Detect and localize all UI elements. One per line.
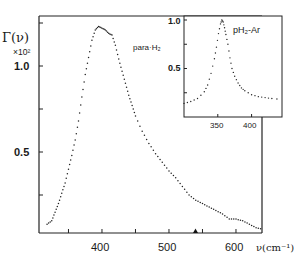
- data-point: [186, 191, 188, 193]
- inset-data-point: [254, 95, 255, 96]
- data-point: [119, 62, 121, 64]
- inset-data-point: [183, 103, 184, 104]
- data-point: [173, 175, 175, 177]
- data-point: [63, 186, 65, 188]
- data-point: [59, 199, 61, 201]
- data-point: [249, 223, 251, 225]
- data-point: [118, 58, 120, 60]
- inset-data-point: [228, 50, 229, 51]
- data-point: [105, 29, 107, 31]
- x-axis-label: ν(cm⁻¹): [256, 242, 294, 253]
- data-point: [96, 28, 98, 30]
- data-point: [79, 112, 81, 114]
- inset-data-point: [241, 87, 242, 88]
- data-point: [240, 219, 242, 221]
- inset-data-point: [218, 33, 219, 34]
- data-point: [253, 226, 255, 228]
- data-point: [206, 205, 208, 207]
- inset-data-point: [224, 27, 225, 28]
- data-point: [81, 96, 83, 98]
- inset-data-point: [258, 96, 259, 97]
- inset-data-point: [204, 91, 205, 92]
- data-point: [60, 196, 62, 198]
- data-point: [52, 217, 54, 219]
- data-point: [134, 112, 136, 114]
- inset-data-point: [248, 92, 249, 93]
- data-point: [88, 57, 90, 59]
- inset-data-point: [225, 34, 226, 35]
- data-point: [128, 94, 130, 96]
- data-point: [83, 81, 85, 83]
- inset-x-tick-350: 350: [210, 121, 224, 130]
- data-point: [71, 155, 73, 157]
- data-point: [168, 170, 170, 172]
- data-point: [157, 156, 159, 158]
- y-axis-label: Γ(ν): [2, 30, 29, 45]
- data-point: [141, 131, 143, 133]
- inset-data-point: [219, 28, 220, 29]
- data-point: [131, 105, 133, 107]
- data-point: [112, 38, 114, 40]
- inset-y-tick-1: 1.0: [168, 16, 181, 26]
- data-point: [46, 223, 48, 225]
- data-point: [116, 49, 118, 51]
- inset-data-point: [229, 57, 230, 58]
- data-point: [122, 74, 124, 76]
- data-point: [211, 207, 213, 209]
- data-point: [204, 204, 206, 206]
- inset-data-point: [205, 88, 206, 89]
- data-point: [64, 182, 66, 184]
- data-point: [68, 168, 70, 170]
- data-point: [197, 201, 199, 203]
- data-point: [144, 135, 146, 137]
- y-tick-label-05: 0.5: [14, 146, 29, 158]
- data-point: [93, 33, 95, 35]
- data-point: [129, 98, 131, 100]
- data-point: [78, 120, 80, 122]
- data-point: [130, 101, 132, 103]
- data-point: [244, 221, 246, 223]
- data-point: [220, 212, 222, 214]
- data-point: [82, 89, 84, 91]
- data-point: [62, 189, 64, 191]
- data-point: [55, 209, 57, 211]
- data-point: [258, 228, 260, 230]
- data-point: [54, 211, 56, 213]
- inset-data-point: [209, 78, 210, 79]
- data-point: [107, 31, 109, 33]
- data-point: [166, 167, 168, 169]
- data-point: [73, 144, 75, 146]
- data-point: [182, 186, 184, 188]
- inset-data-point: [226, 39, 227, 40]
- data-point: [114, 41, 116, 43]
- data-point: [106, 30, 108, 32]
- inset-data-point: [242, 89, 243, 90]
- inset-data-point: [200, 94, 201, 95]
- data-point: [95, 29, 97, 31]
- data-point: [170, 172, 172, 174]
- inset-data-point: [268, 97, 269, 98]
- data-point: [222, 213, 224, 215]
- triangle-marker-icon: [193, 229, 198, 234]
- data-point: [139, 125, 141, 127]
- inset-data-point: [261, 96, 262, 97]
- spectrum-figure: Γ(ν) ×10² 1.0 0.5 400 500 600 ν(cm⁻¹) pa…: [0, 0, 303, 262]
- inset-data-point: [197, 98, 198, 99]
- data-point: [90, 45, 92, 47]
- inset-data-point: [236, 79, 237, 80]
- data-point: [195, 199, 197, 201]
- inset-y-tick-05: 0.5: [168, 63, 181, 73]
- data-point: [193, 198, 195, 200]
- data-point: [72, 150, 74, 152]
- data-point: [67, 173, 69, 175]
- data-point: [51, 220, 53, 222]
- inset-data-point: [230, 62, 231, 63]
- inset-data-point: [214, 58, 215, 59]
- data-point: [202, 203, 204, 205]
- data-point: [255, 227, 257, 229]
- data-point: [191, 196, 193, 198]
- inset-annotation: pH₂-Ar: [233, 25, 260, 35]
- inset-x-tick-400: 400: [243, 121, 257, 130]
- data-point: [137, 120, 139, 122]
- data-point: [148, 143, 150, 145]
